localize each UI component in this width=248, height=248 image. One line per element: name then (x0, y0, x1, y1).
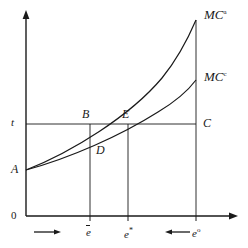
y-axis (23, 10, 30, 216)
mc-a-base: MC (204, 7, 224, 22)
mc-a-superscript: a (224, 8, 227, 16)
x-tick-label-e-circ: eo (192, 227, 200, 239)
curve-label-mc-a: MCa (204, 8, 227, 21)
point-label-C: C (203, 117, 211, 129)
e-star-superscript: * (129, 226, 133, 235)
x-axis-arrowhead (229, 213, 238, 220)
point-label-E: E (122, 108, 129, 120)
x-tick-label-e-star: e* (124, 227, 133, 240)
curve-mc-a (26, 20, 196, 170)
marginal-cost-figure: MCa MCc t 0 A B C D E e e* eo (0, 0, 248, 248)
e-bar-base: e (86, 227, 91, 238)
x-axis (26, 213, 238, 220)
arrow-left-head (165, 229, 172, 234)
origin-label: 0 (11, 210, 17, 221)
mc-c-base: MC (204, 69, 224, 84)
point-label-B: B (82, 108, 89, 120)
point-label-D: D (96, 144, 105, 156)
mc-c-superscript: c (224, 70, 227, 78)
curve-label-mc-c: MCc (204, 70, 227, 83)
arrow-left-icon (165, 229, 190, 234)
point-label-A: A (11, 163, 18, 175)
e-circ-superscript: o (197, 226, 201, 234)
arrow-right-icon (34, 229, 61, 234)
curve-mc-c (26, 80, 196, 170)
x-tick-label-e-bar: e (86, 227, 91, 238)
arrow-right-head (54, 229, 61, 234)
y-axis-arrowhead (23, 10, 30, 19)
tax-level-label: t (11, 117, 14, 128)
x-axis-ticks (90, 216, 196, 221)
